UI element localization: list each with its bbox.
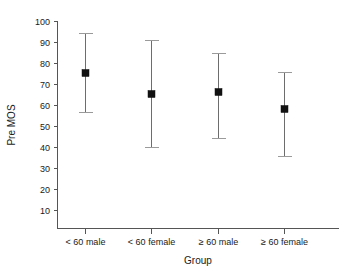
mean-marker xyxy=(148,91,155,98)
y-tick-label: 20 xyxy=(40,185,50,195)
y-tick-label: 100 xyxy=(35,17,50,27)
y-tick-label: 90 xyxy=(40,38,50,48)
x-axis-title: Group xyxy=(184,255,212,266)
x-tick-label-group-2: < 60 female xyxy=(128,237,175,247)
x-tick-label-group-4: ≥ 60 female xyxy=(261,237,308,247)
x-tick-label-group-1: < 60 male xyxy=(66,237,106,247)
y-tick-label: 70 xyxy=(40,80,50,90)
y-tick-label: 60 xyxy=(40,101,50,111)
y-tick-label: 50 xyxy=(40,122,50,132)
y-tick-label: 80 xyxy=(40,59,50,69)
mean-marker xyxy=(82,70,89,77)
y-tick-label: 40 xyxy=(40,143,50,153)
chart-background xyxy=(0,0,350,274)
chart-container: 100 90 80 70 60 50 40 30 20 10 < 60 male xyxy=(0,0,350,274)
y-tick-label: 10 xyxy=(40,206,50,216)
y-tick-label: 30 xyxy=(40,164,50,174)
mean-marker xyxy=(215,89,222,96)
mean-marker xyxy=(281,106,288,113)
y-axis-title: Pre MOS xyxy=(6,104,17,145)
x-tick-label-group-3: ≥ 60 male xyxy=(199,237,238,247)
error-bar-chart: 100 90 80 70 60 50 40 30 20 10 < 60 male xyxy=(0,0,350,274)
